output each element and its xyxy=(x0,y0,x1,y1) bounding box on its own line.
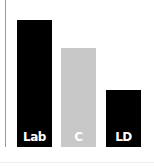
bar-lab: Lab xyxy=(17,20,52,147)
baseline-divider xyxy=(0,162,154,163)
bar-c: C xyxy=(61,48,96,147)
y-axis-line xyxy=(5,0,6,147)
bar-label: C xyxy=(61,130,96,144)
bar-label: LD xyxy=(106,130,141,144)
bar-ld: LD xyxy=(106,90,141,147)
bar-label: Lab xyxy=(17,130,52,144)
